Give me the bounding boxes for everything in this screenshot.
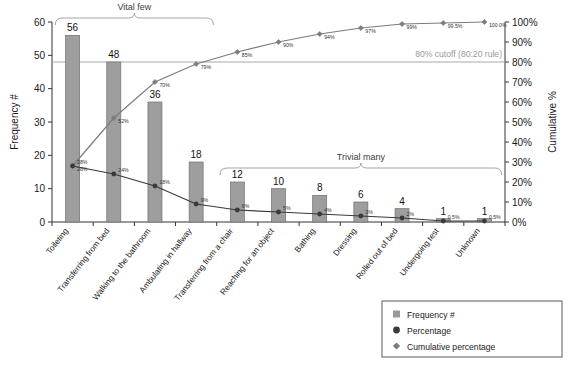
annotation-bracket [55, 13, 213, 25]
cumulative-value-label: 79% [201, 64, 212, 70]
y-tick-label-right: 70% [512, 77, 532, 88]
chart-canvas: 01020304050600%10%20%30%40%50%60%70%80%9… [0, 0, 573, 370]
percentage-marker [358, 214, 363, 219]
cumulative-marker [482, 19, 487, 24]
annotation-bracket [220, 163, 502, 175]
percentage-value-label: 0.5% [448, 214, 460, 220]
legend-item-label: Cumulative percentage [407, 342, 496, 352]
bar [66, 35, 80, 222]
y-tick-label-left: 40 [34, 83, 46, 94]
cumulative-value-label: 100.0% [489, 22, 507, 28]
bar [148, 102, 162, 222]
category-label: Undergoing test [398, 226, 441, 278]
legend-marker-circle [393, 327, 400, 334]
y-tick-label-right: 80% [512, 57, 532, 68]
cumulative-marker [317, 31, 322, 36]
annotation-label: Trivial many [337, 152, 386, 162]
y-tick-label-left: 60 [34, 17, 46, 28]
percentage-value-label: 5% [283, 205, 291, 211]
cumulative-value-label: 99% [407, 24, 418, 30]
cumulative-value-label: 52% [118, 118, 129, 124]
bar-value-label: 1 [482, 206, 488, 217]
y-tick-label-left: 10 [34, 183, 46, 194]
bar-value-label: 18 [191, 149, 203, 160]
cumulative-value-label: 90% [283, 42, 294, 48]
bar-value-label: 12 [232, 169, 244, 180]
percentage-value-label: 6% [242, 203, 250, 209]
percentage-marker [70, 164, 75, 169]
cumulative-value-label: 70% [159, 82, 170, 88]
y-tick-label-right: 0% [512, 217, 527, 228]
y-tick-label-left: 0 [39, 217, 45, 228]
y-axis-title-left: Frequency # [9, 94, 20, 150]
percentage-value-label: 2% [407, 211, 415, 217]
annotation-label: Vital few [117, 2, 151, 12]
category-label: Toileting [45, 226, 71, 256]
cumulative-value-label: 85% [242, 52, 253, 58]
percentage-marker [276, 210, 281, 215]
percentage-marker [153, 184, 158, 189]
cumulative-value-label: 94% [324, 34, 335, 40]
cumulative-marker [441, 20, 446, 25]
bar [230, 182, 244, 222]
y-tick-label-left: 20 [34, 150, 46, 161]
category-label: Unknown [454, 226, 482, 259]
cumulative-marker [235, 49, 240, 54]
percentage-marker [317, 212, 322, 217]
bar-value-label: 1 [440, 206, 446, 217]
bar [189, 162, 203, 222]
bar-value-label: 8 [317, 182, 323, 193]
y-tick-label-right: 30% [512, 157, 532, 168]
category-label: Rolled out of bed [354, 226, 399, 281]
cumulative-value-label: 97% [365, 28, 376, 34]
percentage-marker [400, 216, 405, 221]
category-label: Bathing [293, 226, 317, 254]
y-tick-label-right: 100% [512, 17, 538, 28]
y-tick-label-right: 50% [512, 117, 532, 128]
percentage-marker [441, 219, 446, 224]
bar-value-label: 56 [67, 22, 79, 33]
percentage-value-label: 18% [159, 179, 170, 185]
y-tick-label-left: 30 [34, 117, 46, 128]
y-tick-label-right: 60% [512, 97, 532, 108]
y-tick-label-right: 20% [512, 177, 532, 188]
cumulative-marker [358, 25, 363, 30]
y-tick-label-right: 10% [512, 197, 532, 208]
percentage-value-label: 24% [118, 167, 129, 173]
cumulative-marker [276, 39, 281, 44]
legend-marker-square [393, 311, 400, 318]
bar [107, 62, 121, 222]
pareto-chart: 01020304050600%10%20%30%40%50%60%70%80%9… [0, 0, 573, 370]
percentage-marker [482, 219, 487, 224]
y-tick-label-left: 50 [34, 50, 46, 61]
bar-value-label: 48 [108, 49, 120, 60]
y-tick-label-right: 40% [512, 137, 532, 148]
bar-value-label: 6 [358, 189, 364, 200]
percentage-value-label: 28% [77, 159, 88, 165]
y-axis-title-right: Cumulative % [547, 91, 558, 153]
y-tick-label-right: 90% [512, 37, 532, 48]
percentage-value-label: 3% [365, 209, 373, 215]
bar-value-label: 10 [273, 176, 285, 187]
percentage-marker [194, 202, 199, 207]
percentage-value-label: 4% [324, 207, 332, 213]
reference-line-label: 80% cutoff (80:20 rule) [415, 49, 502, 59]
legend-item-label: Percentage [407, 326, 451, 336]
category-label: Dressing [331, 226, 358, 257]
percentage-marker [111, 172, 116, 177]
cumulative-value-label: 99.5% [448, 23, 463, 29]
legend-item-label: Frequency # [407, 310, 455, 320]
cumulative-marker [399, 21, 404, 26]
bar-value-label: 36 [149, 89, 161, 100]
bar-value-label: 4 [399, 196, 405, 207]
percentage-value-label: 9% [201, 197, 209, 203]
percentage-value-label: 0.5% [489, 214, 501, 220]
percentage-marker [235, 208, 240, 213]
